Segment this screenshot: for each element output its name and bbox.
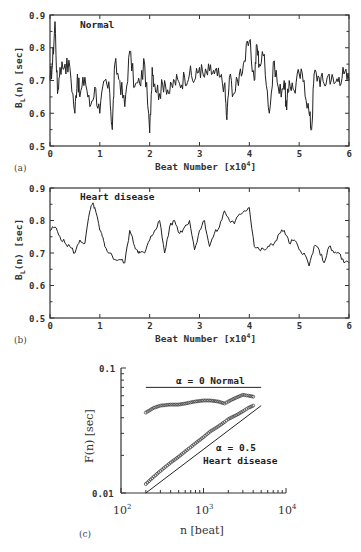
x-tick-label: 5: [297, 149, 302, 159]
y-tick-label: 0.9: [29, 11, 45, 21]
x-tick-label: 4: [247, 149, 253, 159]
y-axis-label: BL(n) [sec]: [13, 219, 27, 280]
y-tick-label: 0.6: [29, 281, 45, 291]
y-tick-label: 0.8: [29, 216, 45, 226]
y-tick-label: 0.01: [92, 489, 114, 499]
x-tick-label: 3: [197, 321, 202, 331]
x-tick-label: 6: [347, 321, 352, 331]
figure: 0123456 0.50.60.70.80.9 Normal Beat Numb…: [0, 0, 361, 552]
y-tick-label: 0.5: [29, 314, 45, 324]
x-axis-label: n [beat]: [180, 524, 224, 537]
y-tick-label: 0.7: [29, 249, 45, 259]
panel-c-dfa: 0.1 0.01 102 103 104 n [beat] F(n) [sec]…: [79, 364, 297, 539]
annotation-normal: α = 0 Normal: [176, 375, 245, 386]
x-tick-label: 2: [147, 321, 152, 331]
annotation-heart-disease: Heart disease: [203, 455, 278, 466]
x-tick-label: 102: [113, 503, 131, 517]
x-tick-labels: 0123456: [48, 149, 352, 159]
x-axis-label: Beat Number [x104]: [155, 332, 256, 344]
x-tick-label: 0: [48, 321, 53, 331]
x-tick-label: 2: [147, 149, 152, 159]
y-tick-label: 0.1: [99, 364, 115, 374]
x-tick-label: 0: [48, 149, 53, 159]
panel-a-normal: 0123456 0.50.60.70.80.9 Normal Beat Numb…: [13, 11, 352, 174]
x-tick-label: 103: [195, 503, 213, 517]
y-axis-label: BL(n) [sec]: [13, 47, 27, 108]
x-tick-label: 1: [97, 149, 102, 159]
panel-label-b: (b): [14, 335, 27, 345]
panel-title: Heart disease: [80, 191, 155, 202]
annotation-alpha-0.5: α = 0.5: [216, 442, 256, 453]
y-axis-label: F(n) [sec]: [83, 409, 96, 463]
x-tick-label: 104: [278, 503, 297, 517]
y-tick-labels: 0.50.60.70.80.9: [29, 184, 45, 324]
y-tick-label: 0.9: [29, 184, 45, 194]
x-tick-label: 5: [297, 321, 302, 331]
x-tick-label: 6: [347, 149, 352, 159]
panel-title: Normal: [80, 19, 115, 30]
normal-rr-series: [50, 22, 349, 133]
x-tick-label: 4: [247, 321, 253, 331]
panel-b-heart-disease: 0123456 0.50.60.70.80.9 Heart disease Be…: [13, 184, 352, 346]
panel-label-c: (c): [79, 529, 91, 539]
y-tick-label: 0.5: [29, 142, 45, 152]
y-tick-labels: 0.50.60.70.80.9: [29, 11, 45, 152]
y-tick-label: 0.7: [29, 76, 45, 86]
y-tick-label: 0.6: [29, 109, 45, 119]
x-tick-label: 1: [97, 321, 102, 331]
x-axis-label: Beat Number [x104]: [155, 160, 256, 172]
y-tick-label: 0.8: [29, 43, 45, 53]
x-tick-label: 3: [197, 149, 202, 159]
x-tick-labels: 0123456: [48, 321, 352, 331]
dfa-points: [144, 393, 254, 485]
axis-ticks: [121, 368, 286, 493]
heart-disease-rr-series: [50, 203, 349, 266]
panel-label-a: (a): [14, 163, 26, 173]
